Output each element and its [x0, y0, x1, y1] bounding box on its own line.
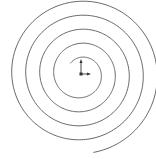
spiral-canvas: [0, 0, 156, 159]
spiral-curve: [12, 1, 156, 152]
origin-axes-icon: [80, 59, 92, 76]
